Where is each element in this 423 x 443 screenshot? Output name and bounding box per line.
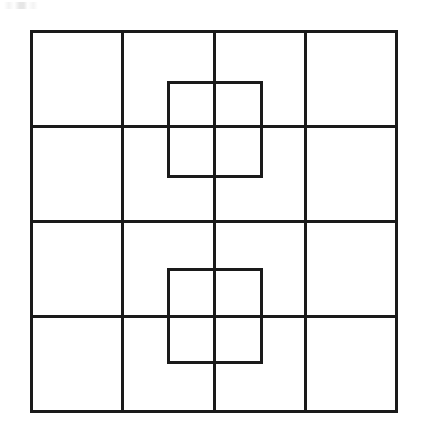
figure-canvas [0,0,423,443]
grid-figure-svg [0,0,423,443]
